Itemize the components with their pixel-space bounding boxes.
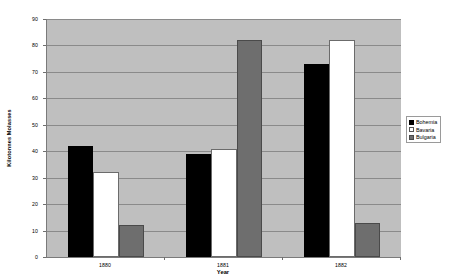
y-axis-title: Kilotonnes Molasses	[6, 109, 12, 167]
y-tick-label: 70	[32, 69, 38, 75]
y-tick-label: 50	[32, 122, 38, 128]
x-tick-label: 1882	[335, 262, 347, 268]
legend-item-bulgaria[interactable]: Bulgaria	[409, 134, 437, 140]
x-tick-label: 1881	[217, 262, 229, 268]
y-tick-label: 90	[32, 16, 38, 22]
x-axis-title: Year	[217, 269, 229, 275]
x-tick-mark	[282, 257, 283, 260]
bar-bohemia-1881	[186, 154, 212, 257]
y-tick-label: 80	[32, 42, 38, 48]
bar-bulgaria-1880	[119, 225, 145, 257]
legend-swatch-icon	[409, 127, 414, 132]
y-tick-label: 0	[35, 254, 38, 260]
bar-bavaria-1882	[329, 40, 355, 257]
y-tick-label: 40	[32, 148, 38, 154]
gridline	[47, 19, 401, 20]
x-tick-mark	[400, 257, 401, 260]
chart-legend: BohemiaBavariaBulgaria	[406, 116, 441, 143]
y-tick-label: 20	[32, 201, 38, 207]
bar-bulgaria-1882	[355, 223, 381, 257]
y-tick-label: 60	[32, 95, 38, 101]
bar-bohemia-1882	[304, 64, 330, 257]
legend-item-bohemia[interactable]: Bohemia	[409, 119, 437, 125]
legend-label: Bohemia	[416, 119, 437, 125]
bar-bavaria-1881	[211, 149, 237, 257]
legend-swatch-icon	[409, 120, 414, 125]
x-tick-mark	[164, 257, 165, 260]
bar-bulgaria-1881	[237, 40, 263, 257]
x-tick-label: 1880	[99, 262, 111, 268]
y-tick-label: 10	[32, 228, 38, 234]
legend-swatch-icon	[409, 135, 414, 140]
legend-label: Bulgaria	[416, 134, 436, 140]
legend-label: Bavaria	[416, 127, 434, 133]
bar-bohemia-1880	[68, 146, 94, 257]
bar-bavaria-1880	[93, 172, 119, 257]
legend-item-bavaria[interactable]: Bavaria	[409, 127, 437, 133]
y-tick-label: 30	[32, 175, 38, 181]
plot-area	[46, 19, 401, 258]
bar-chart: 0102030405060708090 Kilotonnes Molasses …	[0, 0, 476, 276]
